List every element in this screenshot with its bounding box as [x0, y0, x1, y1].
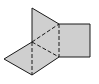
square-plane	[59, 24, 90, 57]
three-planes-diagram	[0, 0, 99, 84]
